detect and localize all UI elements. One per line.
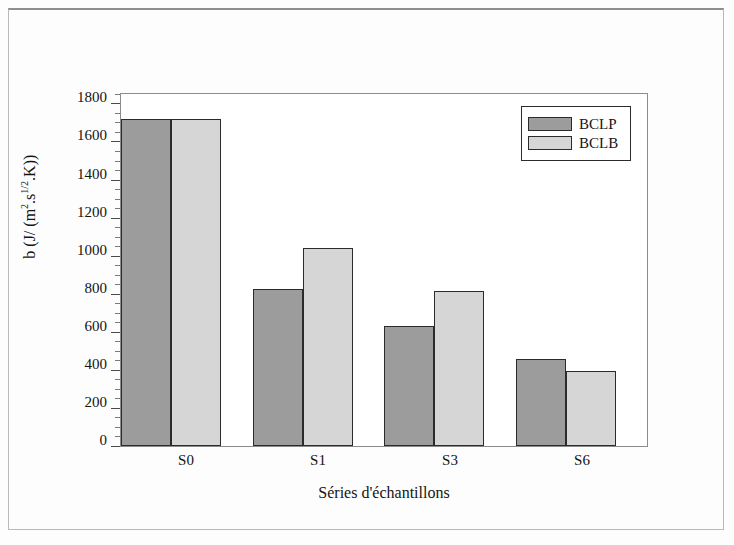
y-tick-minor [115, 170, 120, 171]
y-tick-minor [115, 398, 120, 399]
y-tick-major [111, 446, 120, 447]
bar-bclb-s0 [171, 119, 221, 446]
y-tick-major [111, 256, 120, 257]
legend-swatch-bclp [528, 117, 572, 131]
y-tick-label: 1200 [77, 204, 107, 219]
x-axis-title: Séries d'échantillons [120, 484, 648, 502]
y-axis-title-suffix: .K)) [21, 155, 38, 181]
figure-page: 020040060080010001200140016001800 b (J/ … [0, 0, 734, 545]
legend-swatch-bclb [528, 136, 572, 150]
x-tick-label-s3: S3 [384, 452, 516, 476]
y-tick-label: 1000 [77, 242, 107, 257]
y-axis-title: b (J/ (m2.s1/2.K)) [19, 57, 38, 357]
y-tick-minor [115, 303, 120, 304]
y-tick-label: 600 [85, 318, 108, 333]
bar-bclp-s3 [384, 326, 434, 446]
y-tick-minor [115, 132, 120, 133]
y-tick-major [111, 294, 120, 295]
y-tick-label: 800 [85, 280, 108, 295]
y-tick-minor [115, 313, 120, 314]
bar-bclb-s3 [434, 291, 484, 446]
bar-bclb-s1 [303, 248, 353, 446]
y-tick-major [111, 218, 120, 219]
y-tick-minor [115, 94, 120, 95]
y-tick-minor [115, 122, 120, 123]
bar-group-s0 [121, 94, 253, 446]
legend-label-bclp: BCLP [579, 117, 617, 132]
y-tick-label: 0 [100, 433, 108, 448]
x-tick-label-s1: S1 [252, 452, 384, 476]
y-tick-minor [115, 208, 120, 209]
y-tick-major [111, 180, 120, 181]
y-tick-minor [115, 189, 120, 190]
y-tick-minor [115, 161, 120, 162]
y-axis: 020040060080010001200140016001800 [111, 93, 120, 447]
y-tick-minor [115, 351, 120, 352]
y-tick-major [111, 141, 120, 142]
y-axis-title-mid: .s [21, 194, 38, 204]
y-axis-title-sup-area: 2 [19, 204, 30, 209]
legend-entry-bclb: BCLB [528, 136, 624, 151]
y-tick-minor [115, 322, 120, 323]
y-tick-major [111, 370, 120, 371]
legend-entry-bclp: BCLP [528, 117, 624, 132]
y-tick-major [111, 103, 120, 104]
y-tick-minor [115, 113, 120, 114]
y-tick-minor [115, 341, 120, 342]
y-tick-major [111, 332, 120, 333]
bar-group-s1 [253, 94, 385, 446]
y-tick-label: 1800 [77, 90, 107, 105]
y-tick-minor [115, 284, 120, 285]
y-tick-label: 1400 [77, 166, 107, 181]
y-tick-minor [115, 427, 120, 428]
legend-label-bclb: BCLB [579, 136, 618, 151]
y-tick-label: 400 [85, 356, 108, 371]
bar-group-s3 [384, 94, 516, 446]
y-tick-label: 200 [85, 394, 108, 409]
y-tick-major [111, 408, 120, 409]
y-tick-minor [115, 151, 120, 152]
bar-bclp-s6 [516, 359, 566, 446]
legend: BCLP BCLB [521, 106, 631, 161]
x-tick-label-s0: S0 [120, 452, 252, 476]
y-axis-title-sup-time: 1/2 [19, 181, 30, 194]
x-axis-tick-labels: S0S1S3S6 [120, 452, 648, 476]
y-tick-label: 1600 [77, 128, 107, 143]
y-tick-minor [115, 389, 120, 390]
y-tick-minor [115, 199, 120, 200]
bar-chart-figure: 020040060080010001200140016001800 b (J/ … [0, 0, 734, 545]
y-tick-minor [115, 379, 120, 380]
y-axis-title-prefix: b (J/ (m [21, 209, 38, 259]
y-tick-minor [115, 237, 120, 238]
y-tick-minor [115, 275, 120, 276]
bar-bclb-s6 [566, 371, 616, 446]
y-tick-minor [115, 227, 120, 228]
x-tick-label-s6: S6 [516, 452, 648, 476]
y-tick-minor [115, 265, 120, 266]
y-tick-minor [115, 246, 120, 247]
y-tick-minor [115, 360, 120, 361]
y-tick-minor [115, 436, 120, 437]
y-tick-minor [115, 417, 120, 418]
bar-bclp-s0 [121, 119, 171, 446]
bar-bclp-s1 [253, 289, 303, 446]
